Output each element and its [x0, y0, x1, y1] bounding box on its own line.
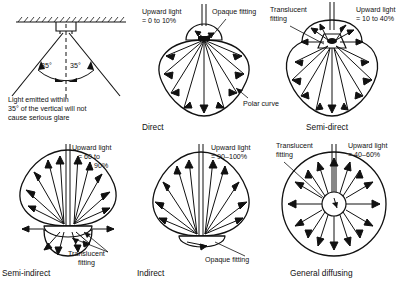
- panel-semi-indirect: Upward light = 60 to 90% Translucent fit…: [0, 140, 140, 281]
- opaque-fitting-label: Opaque fitting: [212, 8, 256, 16]
- panel-caption-general-diffusing: General diffusing: [290, 268, 353, 278]
- upward-light-label-line-2: = 60 to: [78, 153, 100, 161]
- panel-caption-semi-direct: Semi-direct: [306, 122, 348, 132]
- upward-light-label-line-1: Upward light: [72, 144, 111, 152]
- lighting-distribution-figure: 35° 35° Light emitted within 35° of the …: [0, 0, 408, 281]
- translucent-fitting-label-line-1: Translucent: [68, 250, 105, 258]
- lamp-source: [327, 38, 337, 44]
- semi-indirect-polar-drawing: [0, 140, 140, 266]
- translucent-fitting-label-line-2: fitting: [78, 259, 95, 267]
- translucent-fitting-icon: [44, 226, 92, 237]
- angle-label-left: 35°: [41, 62, 52, 70]
- opaque-fitting-label: Opaque fitting: [205, 256, 249, 264]
- glare-ray-left: [12, 33, 63, 96]
- panel-caption-indirect: Indirect: [137, 268, 164, 278]
- light-rays-upward: [155, 160, 247, 234]
- upward-light-label-line-2: = 90–100%: [211, 153, 247, 161]
- leader-opaque-fitting: [215, 242, 245, 256]
- leader-arrowhead-b: [72, 238, 79, 244]
- panel-glare-angle: 35° 35° Light emitted within 35° of the …: [0, 0, 140, 140]
- translucent-fitting-label-line-2: fitting: [270, 15, 287, 23]
- panel-semi-direct: Translucent fitting Upward light = 10 to…: [268, 0, 408, 140]
- angle-arrow-left: [55, 78, 64, 82]
- angle-arrow-right: [68, 78, 77, 82]
- upward-light-label-line-1: Upward light: [348, 142, 387, 150]
- glare-note-line-1: Light emitted within: [8, 96, 69, 104]
- glare-angle-drawing: [0, 0, 140, 110]
- panel-caption-semi-indirect: Semi-indirect: [2, 268, 50, 278]
- panel-general-diffusing: Translucent fitting Upward light = 40–60…: [268, 140, 408, 281]
- upward-light-label-line-3: 90%: [94, 162, 108, 170]
- translucent-fitting-label-line-2: fitting: [276, 151, 293, 159]
- polar-curve: [153, 152, 249, 236]
- upward-light-label-line-1: Upward light: [356, 6, 395, 14]
- upward-light-label-line-2: = 10 to 40%: [356, 15, 394, 23]
- translucent-fitting-label-line-1: Translucent: [270, 6, 307, 14]
- glare-note-line-3: cause serious glare: [8, 114, 70, 122]
- panel-caption-direct: Direct: [142, 122, 164, 132]
- leader-opaque-fitting: [212, 19, 226, 36]
- panel-direct: Upward light = 0 to 10% Opaque fitting P…: [140, 0, 275, 140]
- upward-light-label-line-2: = 40–60%: [348, 151, 380, 159]
- ceiling-hatching-icon: [18, 17, 124, 22]
- translucent-fitting-label-line-1: Translucent: [276, 142, 313, 150]
- panel-indirect: Upward light = 90–100% Opaque fitting In…: [135, 140, 275, 281]
- glare-note-line-2: 35° of the vertical will not: [8, 105, 87, 113]
- angle-label-right: 35°: [70, 62, 81, 70]
- upward-light-label-line-1: Upward light: [211, 144, 250, 152]
- upward-light-label-line-2: = 0 to 10%: [142, 17, 176, 25]
- upward-light-label-line-1: Upward light: [142, 8, 181, 16]
- indirect-polar-drawing: [135, 140, 275, 266]
